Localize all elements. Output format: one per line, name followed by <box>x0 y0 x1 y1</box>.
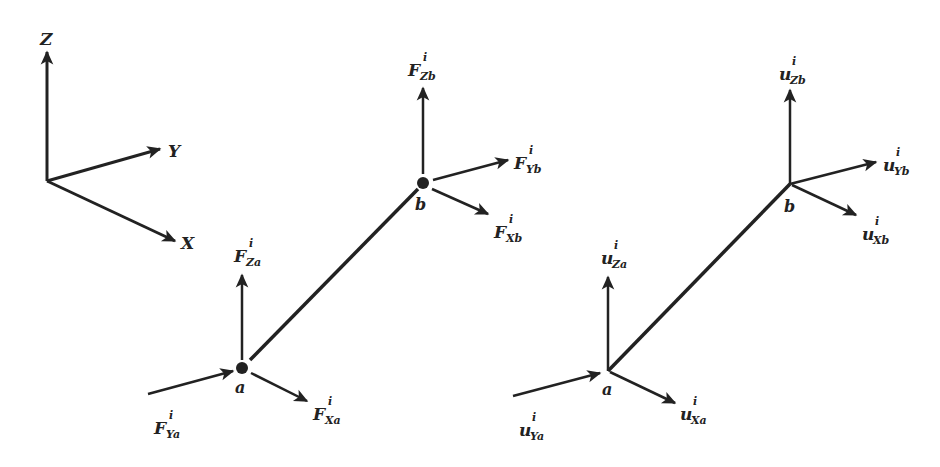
svg-text:i: i <box>509 213 513 226</box>
svg-text:i: i <box>792 55 796 68</box>
force-za-label: F i Za <box>233 237 261 269</box>
force-yb-arrow <box>433 160 508 180</box>
disp-yb-arrow <box>790 162 876 184</box>
svg-text:Xb: Xb <box>872 234 890 247</box>
node-a-dot <box>236 362 248 374</box>
force-element: a b F i Za F i Ya F i Xa F i Zb F i Yb <box>148 51 542 441</box>
svg-text:Za: Za <box>245 256 261 269</box>
svg-text:Za: Za <box>611 258 627 271</box>
z-axis-label: Z <box>39 29 53 49</box>
force-xb-arrow <box>432 189 488 214</box>
svg-text:i: i <box>249 237 253 250</box>
diagram-canvas: Z Y X a b F i Za F i Ya F i Xa <box>0 0 940 467</box>
svg-text:Xa: Xa <box>324 414 341 427</box>
disp-yb-label: u i Yb <box>883 146 910 178</box>
y-axis-arrow <box>47 149 160 181</box>
svg-text:Ya: Ya <box>530 430 544 443</box>
force-xa-label: F i Xa <box>312 395 341 427</box>
disp-node-b-label: b <box>784 197 795 216</box>
svg-text:Zb: Zb <box>789 74 806 87</box>
svg-text:i: i <box>532 411 536 424</box>
svg-text:Zb: Zb <box>419 70 436 83</box>
x-axis-arrow <box>47 181 175 241</box>
svg-text:Yb: Yb <box>526 163 542 176</box>
force-node-a-label: a <box>235 378 245 397</box>
force-xa-arrow <box>251 373 307 401</box>
force-ya-arrow <box>148 371 233 394</box>
force-zb-label: F i Zb <box>407 51 436 83</box>
displacement-element: a b u i Za u i Ya u i Xa u i Zb u i Yb u <box>513 55 910 443</box>
svg-text:i: i <box>875 215 879 228</box>
displacement-beam-member <box>608 184 790 371</box>
svg-text:Yb: Yb <box>894 165 910 178</box>
disp-ya-arrow <box>513 373 600 396</box>
svg-text:i: i <box>896 146 900 159</box>
disp-xb-arrow <box>792 185 856 215</box>
force-node-b-label: b <box>415 195 426 214</box>
svg-text:i: i <box>328 395 332 408</box>
disp-ya-label: u i Ya <box>519 411 544 443</box>
y-axis-label: Y <box>168 141 182 161</box>
svg-text:Ya: Ya <box>166 428 180 441</box>
global-axes: Z Y X <box>39 29 195 253</box>
force-beam-member <box>250 189 418 360</box>
svg-text:i: i <box>423 51 427 64</box>
svg-text:Xb: Xb <box>505 232 523 245</box>
force-ya-label: F i Ya <box>153 409 180 441</box>
node-b-dot <box>417 177 429 189</box>
svg-text:i: i <box>529 144 533 157</box>
x-axis-label: X <box>180 233 195 253</box>
disp-za-label: u i Za <box>601 239 627 271</box>
disp-xa-label: u i Xa <box>680 395 707 427</box>
force-xb-label: F i Xb <box>493 213 523 245</box>
force-yb-label: F i Yb <box>513 144 542 176</box>
svg-text:i: i <box>693 395 697 408</box>
svg-text:i: i <box>169 409 173 422</box>
svg-text:i: i <box>614 239 618 252</box>
disp-xa-arrow <box>610 372 675 403</box>
svg-text:Xa: Xa <box>690 414 707 427</box>
disp-zb-label: u i Zb <box>779 55 806 87</box>
disp-xb-label: u i Xb <box>862 215 890 247</box>
disp-node-a-label: a <box>602 380 612 399</box>
